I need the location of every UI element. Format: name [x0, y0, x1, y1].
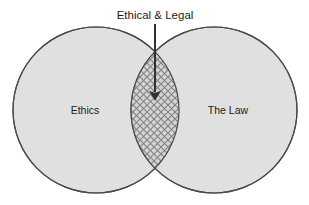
venn-diagram-svg: Ethical & Legal Ethics The Law — [0, 0, 309, 205]
venn-diagram-canvas: Ethical & Legal Ethics The Law — [0, 0, 309, 205]
set-label-the-law: The Law — [208, 104, 249, 116]
callout-label: Ethical & Legal — [117, 9, 194, 21]
set-label-ethics: Ethics — [71, 104, 100, 116]
